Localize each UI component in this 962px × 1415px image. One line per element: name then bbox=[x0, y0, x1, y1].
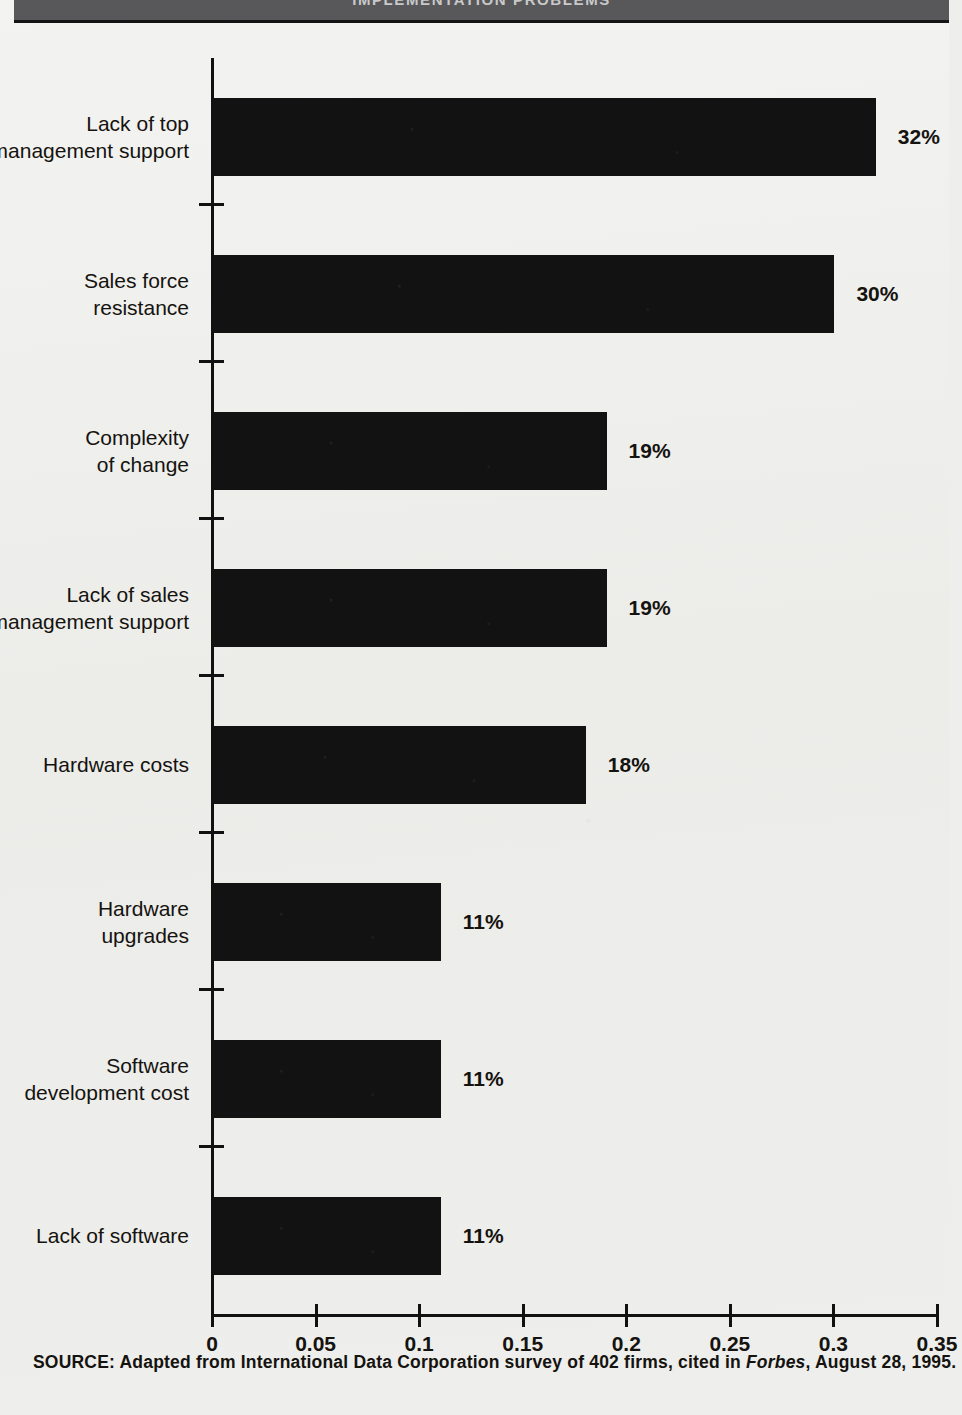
bar-category-label: Lack of salesmanagement support bbox=[0, 581, 189, 635]
bar[interactable] bbox=[213, 412, 607, 490]
chart-title: IMPLEMENTATION PROBLEMS bbox=[14, 0, 949, 8]
bar-category-label: Sales forceresistance bbox=[0, 267, 189, 321]
bar-value-label: 11% bbox=[463, 910, 504, 934]
bar-value-label: 32% bbox=[898, 125, 940, 149]
bar-category-label-line: of change bbox=[0, 451, 189, 478]
bar-category-label-line: Complexity bbox=[0, 424, 189, 451]
source-publication: Forbes bbox=[746, 1352, 806, 1372]
bar[interactable] bbox=[213, 1197, 441, 1275]
bar[interactable] bbox=[213, 883, 441, 961]
value-axis-line bbox=[211, 1314, 938, 1317]
x-axis-tick bbox=[418, 1304, 421, 1327]
bar[interactable] bbox=[213, 98, 876, 176]
bar[interactable] bbox=[213, 569, 607, 647]
bar-category-label: Hardwareupgrades bbox=[0, 895, 189, 949]
bar[interactable] bbox=[213, 255, 834, 333]
bar-value-label: 18% bbox=[608, 753, 650, 777]
bar-row[interactable]: Complexityof change19% bbox=[0, 412, 949, 490]
bar-row[interactable]: Lack of topmanagement support32% bbox=[0, 98, 949, 176]
bar-row[interactable]: Sales forceresistance30% bbox=[0, 255, 949, 333]
source-prefix: SOURCE: Adapted from International Data … bbox=[33, 1352, 746, 1372]
header-band: IMPLEMENTATION PROBLEMS bbox=[14, 0, 949, 23]
bar-category-label-line: Lack of sales bbox=[0, 581, 189, 608]
x-axis-tick bbox=[936, 1304, 939, 1327]
category-axis-line bbox=[211, 58, 214, 1316]
y-axis-tick bbox=[199, 517, 224, 520]
y-axis-tick bbox=[199, 1145, 224, 1148]
bar-chart: 00.050.10.150.20.250.30.35 Lack of topma… bbox=[0, 40, 949, 1335]
bar[interactable] bbox=[213, 726, 586, 804]
bar-category-label-line: management support bbox=[0, 608, 189, 635]
bar-category-label-line: upgrades bbox=[0, 922, 189, 949]
bar-row[interactable]: Softwaredevelopment cost11% bbox=[0, 1040, 949, 1118]
bar-value-label: 11% bbox=[463, 1224, 504, 1248]
bar-row[interactable]: Lack of salesmanagement support19% bbox=[0, 569, 949, 647]
x-axis-tick bbox=[315, 1304, 318, 1327]
bar-category-label: Softwaredevelopment cost bbox=[0, 1052, 189, 1106]
bar-category-label-line: resistance bbox=[0, 294, 189, 321]
bar-category-label-line: Hardware costs bbox=[0, 751, 189, 778]
bar-category-label-line: development cost bbox=[0, 1079, 189, 1106]
bar-category-label-line: Sales force bbox=[0, 267, 189, 294]
y-axis-tick bbox=[199, 360, 224, 363]
y-axis-tick bbox=[199, 674, 224, 677]
x-axis-tick bbox=[211, 1304, 214, 1327]
x-axis-tick bbox=[625, 1304, 628, 1327]
x-axis-tick bbox=[522, 1304, 525, 1327]
bar-category-label-line: Hardware bbox=[0, 895, 189, 922]
bar-row[interactable]: Lack of software11% bbox=[0, 1197, 949, 1275]
bar-category-label: Hardware costs bbox=[0, 751, 189, 778]
bar-row[interactable]: Hardwareupgrades11% bbox=[0, 883, 949, 961]
bar-category-label-line: Software bbox=[0, 1052, 189, 1079]
y-axis-tick bbox=[199, 203, 224, 206]
bar-value-label: 19% bbox=[629, 596, 671, 620]
bar-value-label: 19% bbox=[629, 439, 671, 463]
source-note: SOURCE: Adapted from International Data … bbox=[33, 1352, 923, 1373]
bar-category-label: Lack of topmanagement support bbox=[0, 110, 189, 164]
x-axis-tick bbox=[729, 1304, 732, 1327]
bar-value-label: 30% bbox=[856, 282, 898, 306]
bar-category-label: Lack of software bbox=[0, 1222, 189, 1249]
bar-category-label-line: management support bbox=[0, 137, 189, 164]
y-axis-tick bbox=[199, 831, 224, 834]
bar-value-label: 11% bbox=[463, 1067, 504, 1091]
bar-category-label: Complexityof change bbox=[0, 424, 189, 478]
bar-row[interactable]: Hardware costs18% bbox=[0, 726, 949, 804]
bar-category-label-line: Lack of top bbox=[0, 110, 189, 137]
y-axis-tick bbox=[199, 988, 224, 991]
bar[interactable] bbox=[213, 1040, 441, 1118]
bar-category-label-line: Lack of software bbox=[0, 1222, 189, 1249]
source-suffix: , August 28, 1995. bbox=[806, 1352, 957, 1372]
x-axis-tick bbox=[832, 1304, 835, 1327]
